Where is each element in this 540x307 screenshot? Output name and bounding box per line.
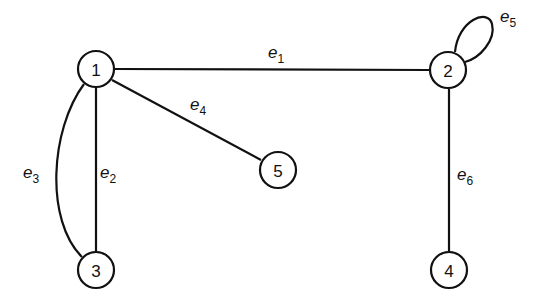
- edge-e1: [115, 69, 429, 70]
- edge-label-e4: e4: [190, 95, 206, 118]
- node-2: 2: [430, 52, 466, 88]
- node-3: 3: [78, 252, 114, 288]
- node-4: 4: [431, 252, 467, 288]
- edge-label-e6: e6: [457, 165, 473, 188]
- node-label-3: 3: [91, 262, 100, 281]
- node-label-2: 2: [443, 62, 452, 81]
- edge-label-e2: e2: [100, 163, 116, 186]
- edge-e4: [112, 80, 261, 160]
- edge-e3: [56, 84, 84, 257]
- node-label-5: 5: [273, 162, 282, 181]
- edge-label-e3: e3: [23, 163, 39, 186]
- edge-e5-loop: [455, 17, 493, 62]
- node-5: 5: [260, 152, 296, 188]
- edge-label-e5: e5: [500, 7, 516, 30]
- node-label-4: 4: [444, 262, 453, 281]
- node-label-1: 1: [91, 61, 100, 80]
- graph-diagram: e1 e2 e3 e4 e5 e6 1 2 3 4 5: [0, 0, 540, 307]
- node-1: 1: [78, 51, 114, 87]
- edge-label-e1: e1: [268, 43, 284, 66]
